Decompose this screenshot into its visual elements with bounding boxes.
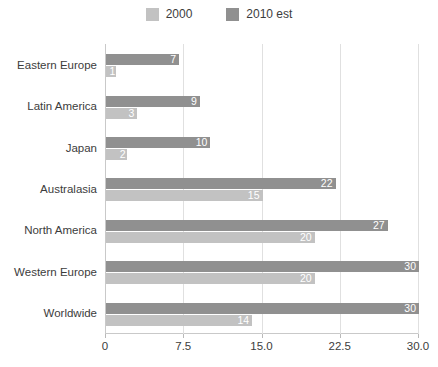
category-label: North America [24,225,97,236]
bar-2000: 20 [106,273,315,284]
legend-swatch-2000 [146,8,159,21]
bar-value-label: 14 [237,315,252,326]
bar-group: Eastern Europe71 [105,44,418,85]
bar-2010-est: 10 [106,137,210,148]
category-label: Latin America [27,101,97,112]
x-axis-tick-label: 22.5 [329,340,351,352]
x-axis-tickmark [262,334,263,338]
bar-2010-est: 22 [106,178,336,189]
bar-value-label: 22 [321,178,336,189]
bar-2000: 3 [106,108,137,119]
bar-2000: 2 [106,149,127,160]
bar-2010-est: 30 [106,261,419,272]
category-label: Western Europe [14,267,97,278]
bar-value-label: 1 [107,66,115,77]
bar-2000: 14 [106,315,252,326]
gridline [418,44,419,334]
category-label: Worldwide [44,308,97,319]
bar-group: Japan102 [105,127,418,168]
bar-value-label: 7 [170,54,179,65]
plot-area: 07.515.022.530.0 Eastern Europe71Latin A… [105,44,418,334]
bar-2000: 20 [106,232,315,243]
x-axis-tickmark [418,334,419,338]
bar-group: Western Europe3020 [105,251,418,292]
category-label: Australasia [40,184,97,195]
bar-2010-est: 27 [106,220,388,231]
x-axis-tick-label: 15.0 [250,340,272,352]
chart-legend: 2000 2010 est [0,8,438,21]
bar-value-label: 2 [118,149,126,160]
bar-value-label: 20 [300,273,315,284]
legend-entry-2000: 2000 [146,8,193,21]
bar-value-label: 3 [128,108,137,119]
bar-value-label: 20 [300,232,315,243]
x-axis-tickmark [340,334,341,338]
bar-value-label: 30 [404,303,419,314]
bar-group: Worldwide3014 [105,293,418,334]
bar-value-label: 27 [373,220,388,231]
x-axis-tickmark [105,334,106,338]
x-axis-tick-label: 0 [102,340,108,352]
bar-value-label: 15 [248,190,263,201]
bar-value-label: 10 [196,137,211,148]
category-label: Japan [66,143,97,154]
bar-group: Australasia2215 [105,168,418,209]
legend-swatch-2010-est [226,8,239,21]
legend-label-2000: 2000 [166,8,193,21]
bar-2000: 1 [106,66,116,77]
bar-group: North America2720 [105,210,418,251]
bar-chart: 2000 2010 est 07.515.022.530.0 Eastern E… [0,0,438,367]
bar-2010-est: 7 [106,54,179,65]
legend-entry-2010-est: 2010 est [226,8,292,21]
x-axis-tickmark [183,334,184,338]
bar-value-label: 30 [404,261,419,272]
bar-group: Latin America93 [105,85,418,126]
bar-2010-est: 9 [106,96,200,107]
category-label: Eastern Europe [17,60,97,71]
legend-label-2010-est: 2010 est [246,8,292,21]
x-axis-tick-label: 30.0 [407,340,429,352]
bar-2000: 15 [106,190,263,201]
x-axis-tick-label: 7.5 [175,340,191,352]
bar-value-label: 9 [191,96,200,107]
bar-2010-est: 30 [106,303,419,314]
